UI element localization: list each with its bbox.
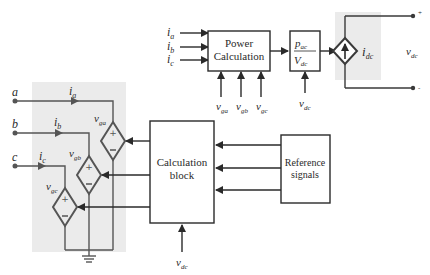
svg-text:+: + (109, 128, 117, 138)
vga-input-label: vga (216, 100, 228, 115)
node-a-label: a (12, 85, 18, 99)
power-calc-inputs (180, 33, 208, 60)
ac-source-shade (32, 82, 126, 252)
dc-minus-terminal (411, 86, 415, 90)
dc-plus-terminal (411, 14, 415, 18)
node-b-label: b (12, 117, 18, 131)
divider-vdc-label: vdc (299, 97, 311, 112)
voltage-input-arrows (221, 72, 261, 97)
reference-line1: Reference (285, 157, 326, 168)
diagram-canvas: ia ib ic Power Calculation vga vgb vgc p… (0, 0, 430, 275)
svg-text:+: + (85, 162, 93, 172)
power-calc-line2: Calculation (214, 50, 265, 62)
minus-sign: - (418, 84, 421, 92)
power-calc-line1: Power (225, 37, 253, 49)
plus-sign: + (418, 9, 422, 17)
vgb-input-label: vgb (236, 100, 248, 115)
reference-line2: signals (291, 169, 319, 180)
calc-block-line1: Calculation (157, 156, 208, 168)
svg-text:+: + (61, 194, 69, 204)
calc-vdc-label: vdc (176, 256, 188, 271)
reference-signal-arrows (216, 145, 281, 190)
ground-icon (82, 256, 96, 262)
vgc-input-label: vgc (256, 100, 268, 115)
vdc-output-label: vdc (406, 45, 418, 60)
node-c-label: c (12, 150, 18, 164)
calc-block-line2: block (170, 169, 195, 181)
